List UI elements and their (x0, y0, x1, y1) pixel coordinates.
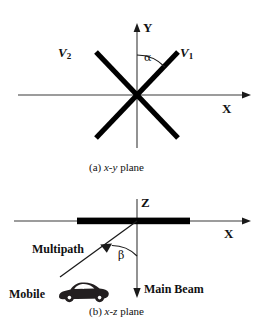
panel-a-y-axis-label: Y (143, 21, 152, 34)
vector-label-v1-subscript: 1 (189, 51, 194, 61)
angle-arc-beta (112, 245, 137, 256)
multipath-label: Multipath (32, 243, 84, 255)
panel-b-caption-prefix: (b) (89, 305, 105, 317)
vector-label-v2-subscript: 2 (67, 51, 72, 61)
vector-label-v2: V2 (58, 46, 71, 61)
panel-a-x-axis-arrowhead (242, 92, 251, 99)
panel-a-group (18, 23, 251, 148)
panel-a-x-axis-label: X (222, 102, 231, 115)
panel-a-caption-suffix: plane (117, 161, 144, 173)
panel-b-caption-italic: x-z (105, 305, 118, 317)
mobile-car-icon (59, 282, 109, 302)
angle-label-beta: β (118, 250, 124, 261)
vector-label-v2-base: V (58, 45, 67, 60)
panel-b-caption: (b) x-z plane (89, 306, 144, 317)
panel-a-caption: (a) x-y plane (89, 162, 144, 173)
panel-a-caption-italic: x-y (104, 161, 117, 173)
multipath-arrowhead (100, 244, 112, 253)
panel-a-caption-prefix: (a) (89, 161, 104, 173)
panel-b-caption-suffix: plane (117, 305, 144, 317)
panel-b-x-axis-arrowhead (242, 218, 251, 225)
vector-label-v1: V1 (180, 46, 193, 61)
vector-label-v1-base: V (180, 45, 189, 60)
panel-b-x-axis-label: X (224, 227, 233, 240)
figure-root: X Y V2 V1 α (a) x-y plane X Z β Multipat… (0, 0, 272, 322)
angle-label-alpha: α (144, 52, 151, 63)
panel-b-z-axis-label: Z (141, 196, 150, 209)
main-beam-label: Main Beam (144, 283, 204, 295)
panel-b-z-axis-arrowhead (133, 288, 140, 298)
panel-a-y-axis-arrowhead (134, 23, 141, 32)
mobile-label: Mobile (9, 288, 45, 300)
